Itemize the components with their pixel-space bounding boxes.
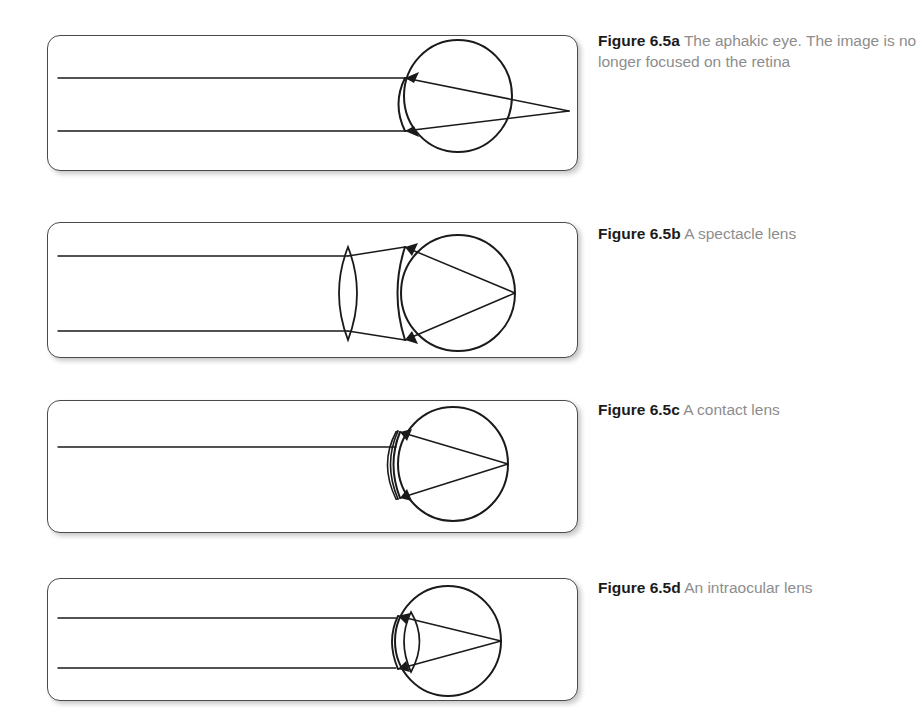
iris-upper-a xyxy=(405,72,419,83)
caption-c-text: A contact lens xyxy=(683,401,780,418)
caption-a: Figure 6.5a The aphakic eye. The image i… xyxy=(598,31,917,72)
refracted-ray-upper-a xyxy=(405,78,569,111)
caption-b-text: A spectacle lens xyxy=(684,225,796,242)
caption-a-label: Figure 6.5a xyxy=(598,32,680,49)
eyeball-c xyxy=(398,407,508,521)
caption-d-label: Figure 6.5d xyxy=(598,579,681,596)
spectacle-lens xyxy=(339,247,357,340)
refracted-ray-upper-d xyxy=(398,616,501,641)
diagram-panel-a xyxy=(47,35,578,171)
refracted-ray-lower-a xyxy=(405,111,569,131)
refracted-ray-lower-c xyxy=(400,464,508,498)
diagram-panel-d xyxy=(47,578,578,701)
diagram-panel-c xyxy=(47,400,578,533)
lens-ray-lower-b xyxy=(348,331,405,340)
caption-c-label: Figure 6.5c xyxy=(598,401,680,418)
panel-c-illustration xyxy=(48,401,579,534)
caption-c: Figure 6.5c A contact lens xyxy=(598,400,917,421)
refracted-ray-upper-b xyxy=(405,247,515,293)
caption-d: Figure 6.5d An intraocular lens xyxy=(598,578,917,599)
eyeball-d xyxy=(395,586,501,696)
refracted-ray-upper-c xyxy=(400,432,508,464)
panel-a-illustration xyxy=(48,36,579,172)
caption-d-text: An intraocular lens xyxy=(684,579,812,596)
figure-6-5: Figure 6.5a The aphakic eye. The image i… xyxy=(0,0,917,714)
panel-b-illustration xyxy=(48,223,579,359)
diagram-panel-b xyxy=(47,222,578,358)
lens-ray-upper-b xyxy=(348,247,405,256)
caption-b-label: Figure 6.5b xyxy=(598,225,681,242)
panel-d-illustration xyxy=(48,579,579,702)
refracted-ray-lower-d xyxy=(398,641,501,669)
caption-b: Figure 6.5b A spectacle lens xyxy=(598,224,917,245)
